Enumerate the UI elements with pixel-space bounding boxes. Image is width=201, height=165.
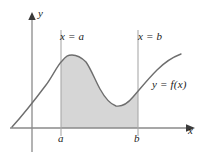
y-axis-arrowhead <box>28 12 35 20</box>
label-x-equals-a: x = a <box>60 31 84 42</box>
x-tick-label-b: b <box>134 133 140 144</box>
area-under-curve-figure: x = a x = b y = f(x) y x a b <box>0 0 201 165</box>
x-tick-label-a: a <box>58 133 64 144</box>
y-axis-label: y <box>38 8 43 19</box>
x-axis-label: x <box>188 125 193 136</box>
label-y-equals-f-of-x: y = f(x) <box>152 79 187 90</box>
shaded-area-region <box>61 55 138 128</box>
label-x-equals-b: x = b <box>138 31 162 42</box>
